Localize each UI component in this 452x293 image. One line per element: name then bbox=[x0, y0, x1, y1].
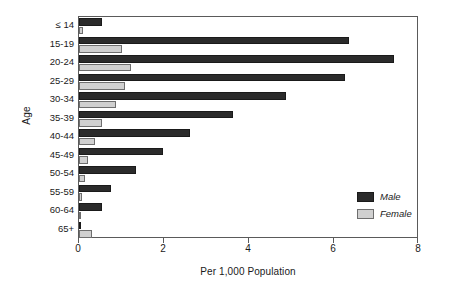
legend-swatch-male-icon bbox=[357, 192, 374, 202]
bar-female-4549 bbox=[79, 156, 88, 164]
x-axis-tick-labels: 02468 bbox=[78, 243, 418, 257]
bar-female-3539 bbox=[79, 119, 102, 127]
bar-female-3034 bbox=[79, 101, 116, 109]
x-axis-tick-label: 0 bbox=[66, 243, 90, 255]
legend-item-female: Female bbox=[357, 205, 433, 222]
bar-female-5559 bbox=[79, 193, 82, 201]
y-axis-tick-label: 25-29 bbox=[30, 76, 74, 86]
y-axis-tick-label: 35-39 bbox=[30, 113, 74, 123]
bar-female-6064 bbox=[79, 212, 81, 220]
bar-female-2529 bbox=[79, 82, 125, 90]
bar-male-2024 bbox=[79, 55, 394, 63]
bar-female-2024 bbox=[79, 64, 131, 72]
y-axis-tick-label: 55-59 bbox=[30, 187, 74, 197]
x-axis-tick-label: 2 bbox=[151, 243, 175, 255]
y-axis-tick-label: ≤ 14 bbox=[30, 20, 74, 30]
y-axis-tick-label: 50-54 bbox=[30, 168, 74, 178]
x-axis-tick-label: 4 bbox=[236, 243, 260, 255]
y-axis-tick-label: 60-64 bbox=[30, 205, 74, 215]
bar-male-3034 bbox=[79, 92, 286, 100]
y-axis-tick-label: 40-44 bbox=[30, 131, 74, 141]
bar-male-5054 bbox=[79, 166, 136, 174]
bar-male-1519 bbox=[79, 37, 349, 45]
bar-male-6064 bbox=[79, 203, 102, 211]
x-axis-tick-label: 8 bbox=[406, 243, 430, 255]
y-axis-tick-labels: ≤ 1415-1920-2425-2930-3435-3940-4445-495… bbox=[30, 16, 74, 238]
y-axis-tick-label: 20-24 bbox=[30, 57, 74, 67]
bar-female-4044 bbox=[79, 138, 95, 146]
bar-female-1519 bbox=[79, 45, 122, 53]
legend-item-male: Male bbox=[357, 188, 433, 205]
legend-label: Female bbox=[380, 208, 412, 219]
legend-label: Male bbox=[380, 191, 401, 202]
bar-female-65+ bbox=[79, 230, 92, 238]
bar-male-3539 bbox=[79, 111, 233, 119]
y-axis-tick-label: 30-34 bbox=[30, 94, 74, 104]
bar-male-5559 bbox=[79, 185, 111, 193]
legend-swatch-female-icon bbox=[357, 209, 374, 219]
bar-female-14 bbox=[79, 27, 83, 35]
y-axis-tick-label: 15-19 bbox=[30, 39, 74, 49]
y-axis-tick-label: 45-49 bbox=[30, 150, 74, 160]
bar-male-4549 bbox=[79, 148, 163, 156]
bar-male-14 bbox=[79, 18, 102, 26]
chart-legend: MaleFemale bbox=[357, 188, 433, 222]
y-axis-tick-label: 65+ bbox=[30, 224, 74, 234]
age-sex-bar-chart: Age ≤ 1415-1920-2425-2930-3435-3940-4445… bbox=[0, 0, 452, 293]
x-axis-tick-label: 6 bbox=[321, 243, 345, 255]
x-axis-title: Per 1,000 Population bbox=[78, 266, 418, 277]
bar-male-2529 bbox=[79, 74, 345, 82]
bar-male-4044 bbox=[79, 129, 190, 137]
bar-male-65+ bbox=[79, 222, 81, 230]
bar-female-5054 bbox=[79, 175, 85, 183]
